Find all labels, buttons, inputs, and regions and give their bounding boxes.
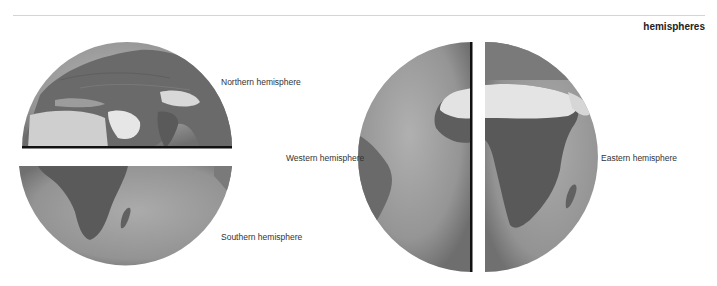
southern-hemisphere-label: Southern hemisphere [221,232,302,242]
eastern-hemisphere-globe [485,42,598,272]
northern-hemisphere-label: Northern hemisphere [221,77,301,87]
western-hemisphere-globe [358,42,473,272]
southern-hemisphere-globe [19,166,232,265]
northern-hemisphere-globe [22,42,232,149]
eastern-hemisphere-label: Eastern hemisphere [601,153,677,163]
hemispheres-figure [0,0,717,286]
western-hemisphere-label: Western hemisphere [286,153,364,163]
